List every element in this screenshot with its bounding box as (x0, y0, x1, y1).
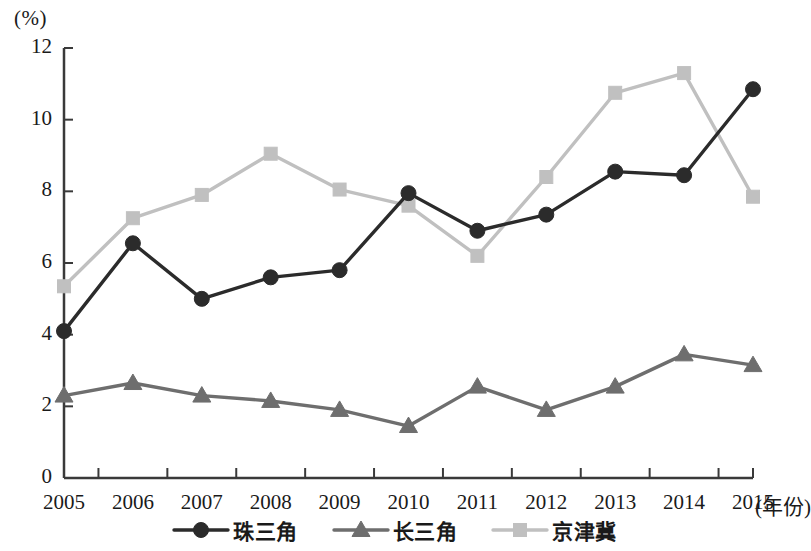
series-京津冀 (58, 67, 760, 293)
triangle-marker (332, 518, 390, 542)
x-axis-tick-label: 2006 (98, 490, 168, 515)
legend-label: 长三角 (393, 515, 458, 545)
x-axis-tick-label: 2005 (29, 490, 99, 515)
data-point (747, 190, 760, 203)
data-point (401, 186, 416, 201)
data-point (332, 263, 347, 278)
data-point (58, 280, 71, 293)
circle-marker (172, 518, 230, 542)
chart-legend: 珠三角长三角京津冀 (0, 515, 789, 545)
legend-label: 珠三角 (233, 515, 298, 545)
data-point (677, 168, 692, 183)
data-point (608, 164, 623, 179)
data-point (675, 345, 693, 360)
y-axis-tick-label: 8 (12, 177, 52, 202)
y-axis-tick-label: 12 (12, 34, 52, 59)
data-point (264, 147, 277, 160)
data-point (471, 249, 484, 262)
data-point (468, 378, 486, 393)
data-point (194, 291, 209, 306)
x-axis-tick-label: 2013 (580, 490, 650, 515)
x-axis-tick-label: 2011 (442, 490, 512, 515)
x-axis-tick-label: 2007 (167, 490, 237, 515)
data-point (125, 236, 140, 251)
data-series-group (55, 67, 762, 433)
y-axis-tick-label: 6 (12, 249, 52, 274)
axis-ticks (64, 48, 753, 478)
data-point (126, 212, 139, 225)
data-point (333, 183, 346, 196)
data-point (540, 171, 553, 184)
data-point (678, 67, 691, 80)
x-axis-tick-label: 2008 (236, 490, 306, 515)
data-point (195, 188, 208, 201)
data-point (609, 86, 622, 99)
x-axis-tick-label: 2014 (649, 490, 719, 515)
axes (64, 48, 753, 478)
y-axis-tick-label: 0 (12, 464, 52, 489)
y-axis-tick-label: 4 (12, 321, 52, 346)
series-长三角 (55, 345, 762, 432)
x-axis-tick-label: 2010 (374, 490, 444, 515)
square-marker (491, 518, 549, 542)
x-axis-tick-label: 2009 (305, 490, 375, 515)
x-axis-tick-label: 2012 (511, 490, 581, 515)
data-point (746, 82, 761, 97)
legend-label: 京津冀 (552, 515, 617, 545)
data-point (263, 270, 278, 285)
y-axis-tick-label: 10 (12, 106, 52, 131)
data-point (539, 207, 554, 222)
legend-item-长三角[interactable]: 长三角 (332, 515, 458, 545)
legend-item-京津冀[interactable]: 京津冀 (491, 515, 617, 545)
data-point (470, 223, 485, 238)
y-axis-tick-label: 2 (12, 392, 52, 417)
data-point (124, 374, 142, 389)
data-point (57, 324, 72, 339)
legend-item-珠三角[interactable]: 珠三角 (172, 515, 298, 545)
